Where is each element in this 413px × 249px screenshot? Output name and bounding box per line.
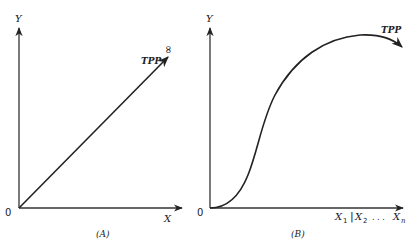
panel-a-caption: (A) bbox=[96, 229, 110, 239]
panel-b-tpp-label: TPP bbox=[381, 25, 401, 35]
panel-a-y-label: Y bbox=[15, 13, 23, 24]
xn-label: X bbox=[392, 211, 401, 222]
tpp-diagram: Y 0 X TPP ∞ (A) Y 0 TPP X 1 | X 2 . . . … bbox=[0, 0, 413, 249]
panel-b-y-label: Y bbox=[206, 13, 214, 24]
panel-a-tpp-line bbox=[19, 57, 168, 208]
x2-subscript: 2 bbox=[363, 217, 367, 225]
panel-a: Y 0 X TPP ∞ (A) bbox=[5, 13, 182, 239]
panel-a-origin-label: 0 bbox=[5, 207, 11, 218]
xn-subscript: n bbox=[401, 217, 406, 225]
panel-b-tpp-curve bbox=[210, 35, 402, 208]
x1-label: X bbox=[334, 211, 343, 222]
panel-b: Y 0 TPP X 1 | X 2 . . . X n (B) bbox=[197, 13, 406, 239]
panel-b-caption: (B) bbox=[291, 229, 305, 239]
ellipsis: . . . bbox=[372, 213, 385, 222]
panel-a-x-label: X bbox=[163, 213, 172, 224]
panel-b-x-labels: X 1 | X 2 . . . X n bbox=[334, 210, 406, 225]
panel-a-infinity-symbol: ∞ bbox=[162, 45, 175, 54]
x2-label: X bbox=[354, 211, 363, 222]
separator: | bbox=[350, 210, 354, 223]
panel-a-tpp-label: TPP bbox=[141, 56, 161, 66]
panel-b-origin-label: 0 bbox=[197, 207, 203, 218]
x1-subscript: 1 bbox=[343, 217, 347, 225]
